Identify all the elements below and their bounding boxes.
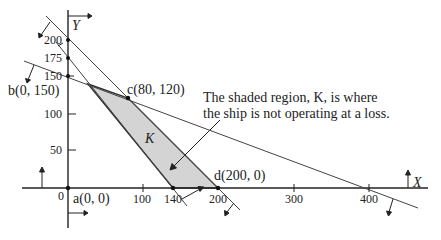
x-axis-label: X <box>412 175 422 190</box>
origin-label: 0 <box>58 189 64 203</box>
y-ticks <box>68 76 76 150</box>
x-tick-300: 300 <box>285 192 303 206</box>
y-tick-200: 200 <box>44 33 62 47</box>
x-tick-200: 200 <box>209 192 227 206</box>
point-label-b: b(0, 150) <box>8 83 60 99</box>
annotation-line-2: the ship is not operating at a loss. <box>203 106 390 121</box>
annotation-line-1: The shaded region, K, is where <box>203 90 378 105</box>
y-tick-175: 175 <box>44 51 62 65</box>
x-tick-400: 400 <box>360 192 378 206</box>
constraint-line-175-140 <box>56 42 187 206</box>
region-label-k: K <box>144 131 155 146</box>
constraint-line-150-400 <box>24 61 418 208</box>
x-tick-140: 140 <box>164 192 182 206</box>
y-tick-150: 150 <box>44 69 62 83</box>
y-tick-100: 100 <box>44 107 62 121</box>
diagram: Y X 0 100 140 200 300 400 50 100 150 175… <box>8 10 428 228</box>
y-tick-50: 50 <box>50 143 62 157</box>
annotation-pointer-arrow <box>170 120 220 170</box>
y-axis-label: Y <box>72 18 82 33</box>
point-label-c: c(80, 120) <box>127 82 185 98</box>
point-label-d: d(200, 0) <box>214 168 266 184</box>
x-tick-100: 100 <box>133 192 151 206</box>
point-label-a: a(0, 0) <box>73 191 110 207</box>
